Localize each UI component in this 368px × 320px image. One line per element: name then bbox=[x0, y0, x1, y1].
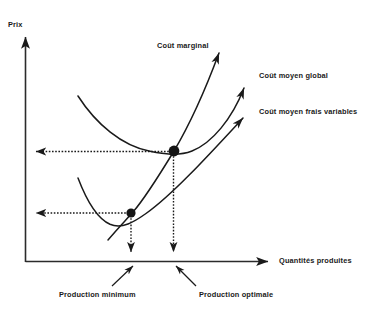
guide-lines-group bbox=[36, 152, 174, 253]
intersection-dot-production-optimale bbox=[169, 146, 180, 157]
curve-marginal-cost bbox=[108, 53, 219, 240]
pointer-production-minimum bbox=[112, 266, 133, 286]
axes-group bbox=[26, 37, 269, 262]
curve-label-average-total-cost: Coût moyen global bbox=[259, 71, 328, 80]
y-axis-label: Prix bbox=[8, 20, 23, 29]
annotation-label-production-minimum: Production minimum bbox=[59, 290, 136, 299]
curves-group bbox=[78, 53, 244, 240]
curve-label-marginal-cost: Coût marginal bbox=[157, 41, 209, 50]
pointer-production-optimale bbox=[176, 266, 196, 286]
cost-curves-svg: Prix Quantités produites Coût marginal C… bbox=[0, 0, 368, 320]
intersection-dot-production-minimum bbox=[126, 208, 135, 217]
curve-label-average-variable-cost: Coût moyen frais variables bbox=[259, 107, 357, 116]
x-axis-label: Quantités produites bbox=[279, 256, 352, 265]
annotation-label-production-optimale: Production optimale bbox=[199, 290, 273, 299]
caption-pointers-group bbox=[112, 266, 196, 286]
cost-curves-figure: Prix Quantités produites Coût marginal C… bbox=[0, 0, 368, 320]
